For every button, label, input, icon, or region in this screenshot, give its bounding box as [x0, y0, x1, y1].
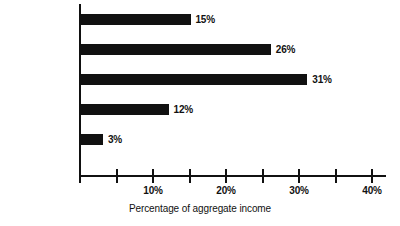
x-axis-line [79, 175, 386, 177]
bar [81, 44, 271, 55]
bar-chart: 10%20%30%40% $8,000 or more15%$5,000-7,9… [0, 0, 400, 226]
bar [81, 14, 191, 25]
x-tick-5 [116, 169, 118, 183]
x-tick-25 [262, 169, 264, 183]
x-tick-20 [225, 169, 227, 183]
bar-value-label: 3% [108, 134, 122, 145]
bar [81, 134, 103, 145]
x-tick-label-10: 10% [131, 185, 175, 196]
bar-value-label: 31% [312, 74, 331, 85]
bar [81, 74, 307, 85]
x-axis-title: Percentage of aggregate income [0, 203, 400, 214]
x-tick-label-30: 30% [277, 185, 321, 196]
x-tick-label-20: 20% [204, 185, 248, 196]
bar-value-label: 15% [196, 14, 215, 25]
x-tick-0 [79, 169, 81, 183]
x-tick-15 [189, 169, 191, 183]
x-tick-10 [152, 169, 154, 183]
x-tick-label-40: 40% [350, 185, 394, 196]
x-tick-40 [371, 169, 373, 183]
x-tick-30 [298, 169, 300, 183]
y-axis-line [79, 4, 81, 177]
bar-value-label: 12% [174, 104, 193, 115]
x-tick-35 [335, 169, 337, 183]
bar-value-label: 26% [276, 44, 295, 55]
bar [81, 104, 169, 115]
